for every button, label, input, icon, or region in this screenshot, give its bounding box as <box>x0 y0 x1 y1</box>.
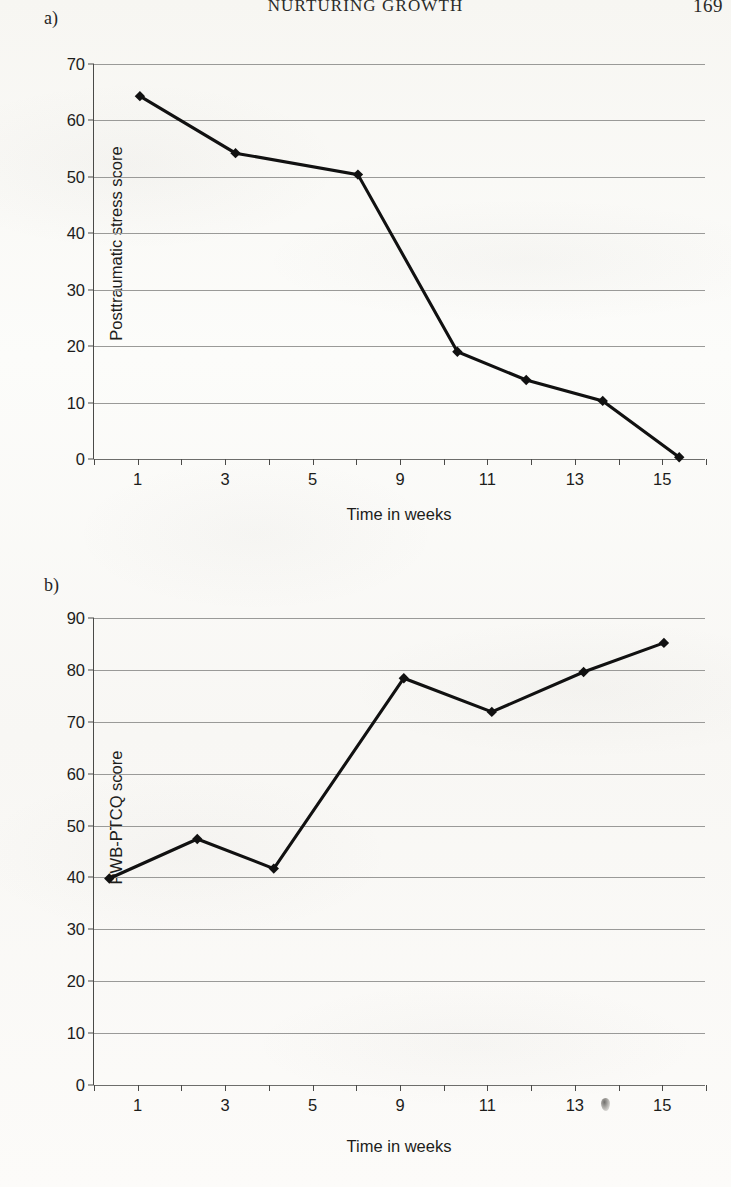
x-axis-tick-label: 5 <box>308 1096 317 1115</box>
x-axis-tick-label: 11 <box>479 470 496 489</box>
y-axis-tick-label: 70 <box>67 55 85 74</box>
x-axis-tick-mark <box>313 459 314 465</box>
chart-b-plot-area: PWB-PTCQ score 0102030405060708090135911… <box>93 618 705 1085</box>
chart-a-posttraumatic-stress: Posttraumatic stress score 0102030405060… <box>0 40 731 565</box>
x-axis-minor-tick-mark <box>444 459 445 465</box>
data-series-line <box>94 64 706 459</box>
x-axis-minor-tick-mark <box>94 1085 95 1091</box>
x-axis-minor-tick-mark <box>356 1085 357 1091</box>
y-axis-tick-label: 0 <box>76 1076 85 1095</box>
x-axis-tick-label: 13 <box>566 470 584 489</box>
chart-a-plot-area: Posttraumatic stress score 0102030405060… <box>93 64 705 459</box>
x-axis-tick-mark <box>662 1085 663 1091</box>
x-axis-minor-tick-mark <box>356 459 357 465</box>
x-axis-minor-tick-mark <box>706 459 707 465</box>
x-axis-minor-tick-mark <box>531 459 532 465</box>
y-axis-tick-label: 40 <box>67 868 85 887</box>
running-head-title: NURTURING GROWTH <box>268 0 464 16</box>
data-series-line <box>94 618 706 1085</box>
data-point-marker <box>521 375 531 385</box>
x-axis-minor-tick-mark <box>269 1085 270 1091</box>
y-axis-tick-label: 70 <box>67 712 85 731</box>
x-axis-minor-tick-mark <box>619 459 620 465</box>
y-axis-tick-label: 20 <box>67 337 85 356</box>
x-axis-minor-tick-mark <box>181 1085 182 1091</box>
x-axis-minor-tick-mark <box>706 1085 707 1091</box>
x-axis-tick-mark <box>575 459 576 465</box>
x-axis-tick-label: 1 <box>133 470 142 489</box>
data-point-marker <box>192 834 202 844</box>
x-axis-tick-mark <box>225 1085 226 1091</box>
panel-label-a: a) <box>44 8 58 29</box>
x-axis-tick-label: 15 <box>653 1096 671 1115</box>
data-point-marker <box>104 873 114 883</box>
page-number: 169 <box>693 0 723 17</box>
y-axis-tick-label: 50 <box>67 816 85 835</box>
y-axis-tick-label: 0 <box>76 450 85 469</box>
x-axis-minor-tick-mark <box>444 1085 445 1091</box>
y-axis-tick-label: 40 <box>67 224 85 243</box>
data-point-marker <box>487 707 497 717</box>
x-axis-tick-label: 9 <box>395 470 404 489</box>
y-axis-tick-label: 60 <box>67 111 85 130</box>
y-axis-tick-label: 50 <box>67 167 85 186</box>
x-axis-tick-label: 9 <box>395 1096 404 1115</box>
y-axis-tick-label: 80 <box>67 660 85 679</box>
y-axis-tick-label: 30 <box>67 920 85 939</box>
y-axis-tick-label: 10 <box>67 393 85 412</box>
x-axis-tick-mark <box>662 459 663 465</box>
x-axis-minor-tick-mark <box>94 459 95 465</box>
x-axis-tick-label: 1 <box>133 1096 142 1115</box>
x-axis-tick-mark <box>138 459 139 465</box>
x-axis-minor-tick-mark <box>619 1085 620 1091</box>
x-axis-tick-mark <box>225 459 226 465</box>
x-axis-tick-label: 11 <box>479 1096 496 1115</box>
x-axis-tick-mark <box>575 1085 576 1091</box>
y-axis-tick-label: 10 <box>67 1024 85 1043</box>
data-point-marker <box>659 638 669 648</box>
running-head: NURTURING GROWTH 169 <box>0 0 731 24</box>
x-axis-tick-mark <box>487 459 488 465</box>
x-axis-tick-label: 15 <box>653 470 671 489</box>
panel-label-b: b) <box>44 575 59 596</box>
x-axis-tick-mark <box>313 1085 314 1091</box>
x-axis-minor-tick-mark <box>531 1085 532 1091</box>
y-axis-tick-label: 20 <box>67 972 85 991</box>
y-axis-tick-label: 30 <box>67 280 85 299</box>
x-axis-minor-tick-mark <box>269 459 270 465</box>
data-point-marker <box>578 667 588 677</box>
x-axis-tick-label: 13 <box>566 1096 584 1115</box>
x-axis-tick-label: 3 <box>221 470 230 489</box>
y-axis-tick-label: 90 <box>67 609 85 628</box>
x-axis-tick-label: 3 <box>221 1096 230 1115</box>
x-axis-tick-mark <box>400 459 401 465</box>
chart-a-x-axis-title: Time in weeks <box>93 505 705 524</box>
x-axis-tick-mark <box>138 1085 139 1091</box>
chart-b-pwb-ptcq: PWB-PTCQ score 0102030405060708090135911… <box>0 600 731 1187</box>
x-axis-tick-mark <box>487 1085 488 1091</box>
x-axis-minor-tick-mark <box>181 459 182 465</box>
chart-b-x-axis-title: Time in weeks <box>93 1137 705 1156</box>
x-axis-tick-mark <box>400 1085 401 1091</box>
x-axis-tick-label: 5 <box>308 470 317 489</box>
y-axis-tick-label: 60 <box>67 764 85 783</box>
